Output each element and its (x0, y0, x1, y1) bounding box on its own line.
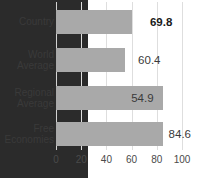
category-label-free-economies: Free Economies (0, 116, 54, 152)
x-tick-80: 80 (151, 154, 162, 165)
bar-row: Free Economies 84.6 (0, 116, 201, 152)
category-label-regional-average: Regional Average (0, 80, 54, 116)
bar-world-average (56, 48, 125, 72)
bar-free-economies (56, 122, 163, 146)
x-tick-40: 40 (101, 154, 112, 165)
x-tick-100: 100 (174, 154, 191, 165)
x-axis: 0 20 40 60 80 100 (0, 152, 201, 178)
category-label-world-average: World Average (0, 42, 54, 78)
bar-chart: Country 69.8 World Average 60.4 Regional… (0, 0, 88, 178)
value-label-world-average: 60.4 (138, 42, 160, 78)
value-label-country: 69.8 (150, 4, 172, 40)
bar-row: World Average 60.4 (0, 42, 201, 78)
x-tick-60: 60 (126, 154, 137, 165)
bars-group: Country 69.8 World Average 60.4 Regional… (0, 0, 201, 152)
x-tick-20: 20 (76, 154, 87, 165)
value-label-free-economies: 84.6 (169, 116, 191, 152)
bar-row: Country 69.8 (0, 4, 201, 40)
bar-row: Regional Average 54.9 (0, 80, 201, 116)
category-label-country: Country (0, 4, 54, 40)
value-label-regional-average: 54.9 (131, 80, 153, 116)
bar-country (56, 10, 132, 34)
x-tick-0: 0 (53, 154, 59, 165)
